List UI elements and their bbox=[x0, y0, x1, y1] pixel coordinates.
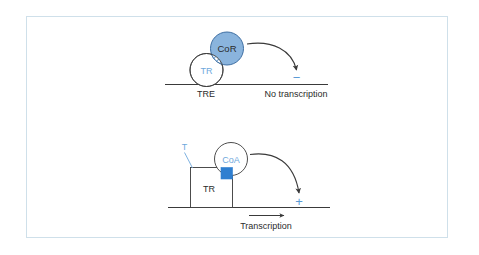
repression-arrow bbox=[247, 43, 297, 70]
plus-sign: + bbox=[295, 194, 303, 209]
figure-root: TR CoR − TRE No transcription TR CoA bbox=[0, 0, 479, 255]
tr-circle-label: TR bbox=[201, 66, 213, 76]
ligand-square bbox=[221, 168, 233, 180]
top-panel: TR CoR − TRE No transcription bbox=[165, 32, 328, 99]
no-transcription-label: No transcription bbox=[264, 89, 327, 99]
cor-circle-label: CoR bbox=[217, 43, 236, 54]
minus-sign: − bbox=[293, 70, 301, 85]
tre-label: TRE bbox=[197, 89, 215, 99]
tr-box-label: TR bbox=[203, 184, 215, 194]
coa-circle-label: CoA bbox=[222, 155, 240, 165]
bottom-panel: TR CoA T + Transcription bbox=[168, 142, 330, 231]
diagram-canvas: TR CoR − TRE No transcription TR CoA bbox=[0, 0, 479, 255]
activation-arrow bbox=[250, 154, 299, 193]
ligand-label-t: T bbox=[182, 142, 188, 152]
transcription-label: Transcription bbox=[240, 221, 292, 231]
ligand-leader-line bbox=[185, 153, 193, 169]
